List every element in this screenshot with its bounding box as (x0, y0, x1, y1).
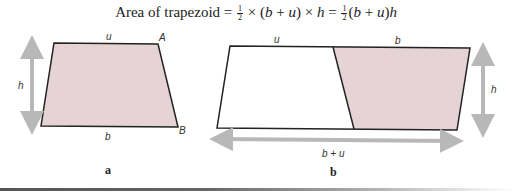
figure-a: u A h b B a (18, 31, 186, 177)
trapezoid-shape (41, 43, 178, 127)
label-B: B (179, 125, 186, 136)
width-arrow-b (221, 139, 452, 141)
label-h-a: h (18, 80, 24, 91)
shaded-trapezoid (333, 47, 470, 130)
trapezoid-diagrams: u A h b B a u b h b + u b (0, 0, 512, 194)
caption-b: b (330, 165, 337, 179)
label-u-a: u (106, 31, 112, 42)
bottom-rule (0, 188, 512, 191)
figure-b: u b h b + u b (217, 34, 497, 179)
label-u-b: u (274, 34, 280, 45)
label-h-b: h (491, 84, 497, 95)
label-b-b: b (395, 35, 401, 46)
label-b-a: b (105, 131, 111, 142)
caption-a: a (105, 163, 111, 177)
label-b-plus-u: b + u (322, 148, 345, 159)
label-A: A (158, 32, 166, 43)
